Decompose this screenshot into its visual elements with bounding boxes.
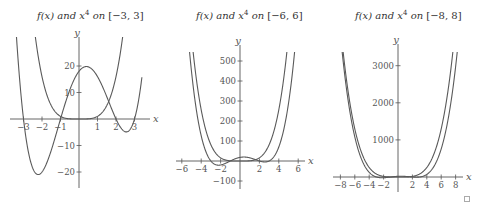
y-axis-label: y	[234, 35, 241, 46]
x-axis-label: x	[153, 113, 159, 124]
x-tick-label: 8	[453, 180, 458, 190]
x-tick-label: −4	[195, 164, 208, 174]
y-tick-label: 200	[220, 116, 236, 126]
x-tick-label: 6	[295, 164, 300, 174]
y-tick-label: 500	[220, 56, 236, 66]
x-tick-label: 2	[257, 164, 262, 174]
x-tick-label: −2	[36, 122, 49, 132]
y-tick-label: 1000	[372, 135, 394, 145]
y-tick-label: −100	[213, 176, 236, 186]
y-tick-label: 300	[220, 96, 236, 106]
chart-interval-3: −3−2−1123−20−101020xy	[10, 0, 159, 188]
x-tick-label: −6	[349, 180, 362, 190]
x-tick-label: −6	[176, 164, 189, 174]
y-tick-label: 20	[64, 61, 75, 71]
y-tick-label: −10	[57, 141, 75, 151]
x-tick-label: −1	[54, 122, 67, 132]
corner-square-icon	[464, 196, 470, 202]
x-tick-label: 6	[438, 180, 443, 190]
x-axis-label: x	[308, 155, 314, 166]
x-tick-label: 2	[410, 180, 415, 190]
y-tick-label: 2000	[372, 98, 394, 108]
x-tick-label: 4	[276, 164, 281, 174]
x-tick-label: −2	[377, 180, 390, 190]
y-axis-label: y	[392, 34, 399, 45]
y-tick-label: −20	[57, 167, 75, 177]
chart-interval-6: −6−4−2246−100100200300400500xy	[176, 0, 314, 189]
x-tick-label: −4	[363, 180, 376, 190]
x-axis-label: x	[466, 171, 472, 182]
x-tick-label: 4	[424, 180, 429, 190]
y-tick-label: 100	[220, 136, 236, 146]
x-tick-label: −8	[334, 180, 347, 190]
y-axis-label: y	[73, 27, 80, 38]
y-tick-label: 3000	[372, 61, 394, 71]
x-tick-label: 1	[95, 122, 100, 132]
plots-canvas: −3−2−1123−20−101020xy −6−4−2246−10010020…	[0, 0, 487, 213]
chart-interval-8: −8−6−4−22468100020003000xy	[333, 0, 472, 192]
y-tick-label: 400	[220, 76, 236, 86]
